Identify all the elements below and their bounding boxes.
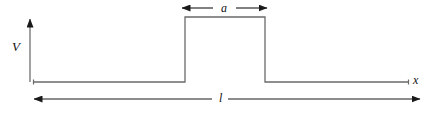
potential-barrier-curve (33, 17, 409, 82)
figure-drawing-canvas (0, 0, 428, 116)
total-length-label: l (219, 92, 222, 104)
barrier-width-label: a (221, 2, 227, 14)
x-axis-label: x (413, 74, 418, 86)
potential-barrier-figure: V x a l (0, 0, 428, 116)
v-axis-label: V (12, 40, 20, 53)
